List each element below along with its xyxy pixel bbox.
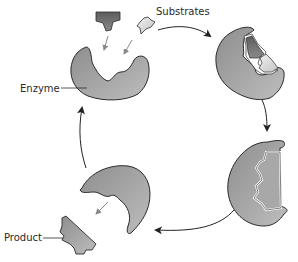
enzyme-shape [80,166,150,234]
substrate-dark-icon [96,12,120,31]
cycle-arrow-icon [80,108,86,168]
substrates-label: Substrates [156,6,210,17]
product-shape [60,216,96,254]
enzyme-label: Enzyme [20,83,60,94]
substrate-light-icon [259,54,278,72]
enzyme-cycle-diagram: Enzyme Substrates Product [0,0,298,262]
stage-binding [216,27,284,99]
stage-free-enzyme [71,12,155,100]
enzyme-shape [71,47,149,100]
product-label: Product [4,232,42,243]
cycle-arrow-icon [262,100,267,130]
substrate-light-icon [137,17,155,34]
release-arrow-icon [96,202,108,214]
binding-arrow-icon [124,40,132,54]
stage-product-release [60,166,150,254]
cycle-arrow-icon [156,210,234,230]
cycle-arrow-icon [158,27,210,36]
binding-arrow-icon [104,36,108,50]
stage-enzyme-substrate-complex [228,141,287,227]
